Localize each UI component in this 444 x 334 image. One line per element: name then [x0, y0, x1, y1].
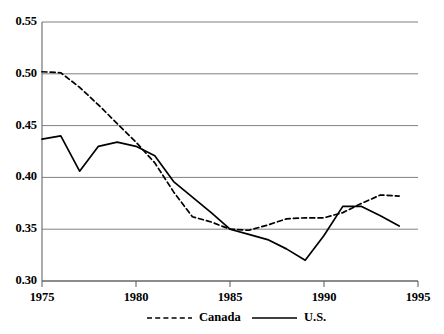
x-tick-label: 1990 [294, 290, 354, 305]
y-tick-label: 0.40 [16, 169, 37, 184]
series-line-u-s [42, 136, 399, 260]
tick-marks [42, 281, 418, 287]
y-tick-label: 0.30 [16, 273, 37, 288]
x-tick-label: 1980 [106, 290, 166, 305]
x-tick-label: 1975 [12, 290, 72, 305]
data-series [42, 72, 399, 261]
y-tick-label: 0.50 [16, 66, 37, 81]
axis-lines [42, 22, 418, 281]
y-tick-label: 0.35 [16, 221, 37, 236]
y-tick-label: 0.45 [16, 118, 37, 133]
gridlines [42, 22, 418, 281]
chart-canvas [0, 0, 444, 334]
legend-label-canada: Canada [199, 310, 241, 325]
x-tick-label: 1985 [200, 290, 260, 305]
x-tick-label: 1995 [388, 290, 444, 305]
legend-label-us: U.S. [304, 310, 326, 325]
line-chart: 0.300.350.400.450.500.55 197519801985199… [0, 0, 444, 334]
y-tick-label: 0.55 [16, 14, 37, 29]
